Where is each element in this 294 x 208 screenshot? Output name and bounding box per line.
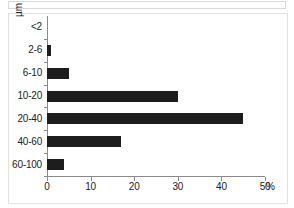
x-axis-unit-label: % (266, 181, 275, 192)
bar-chart: µm <22-66-1010-2020-4040-6060-100 010203… (0, 0, 294, 208)
y-axis-tick (44, 39, 47, 40)
x-axis-tick-label: 0 (32, 181, 62, 192)
bar (47, 136, 121, 147)
x-axis-line (47, 176, 265, 177)
y-axis-tick-label-slot: 2-6 (0, 44, 47, 56)
bar (47, 68, 69, 79)
bar (47, 113, 243, 124)
y-axis-tick (44, 153, 47, 154)
y-axis-tick-label: 40-60 (3, 136, 47, 147)
bar (47, 91, 178, 102)
y-axis-tick-label: 60-100 (3, 159, 47, 170)
y-axis-tick-label-slot: <2 (0, 21, 47, 33)
y-axis-tick (44, 62, 47, 63)
y-axis-tick-label-slot: 60-100 (0, 159, 47, 171)
y-axis-tick-label-slot: 10-20 (0, 90, 47, 102)
y-axis-tick-label: 10-20 (3, 90, 47, 101)
x-axis-tick-label: 10 (76, 181, 106, 192)
x-axis-tick-label: 20 (119, 181, 149, 192)
y-axis-tick-label-slot: 40-60 (0, 136, 47, 148)
y-axis-tick-label-slot: 6-10 (0, 67, 47, 79)
x-axis-tick-label: 30 (163, 181, 193, 192)
y-axis-tick-label: 20-40 (3, 113, 47, 124)
y-axis-tick (44, 130, 47, 131)
bar (47, 45, 51, 56)
y-axis-title: µm (13, 3, 24, 17)
bar (47, 159, 64, 170)
x-axis-tick-label: 50 (250, 181, 280, 192)
x-axis-tick-label: 40 (206, 181, 236, 192)
y-axis-tick-label: <2 (3, 21, 47, 32)
y-axis-tick (44, 107, 47, 108)
y-axis-tick (44, 85, 47, 86)
y-axis-tick-label: 6-10 (3, 67, 47, 78)
y-axis-tick-label-slot: 20-40 (0, 113, 47, 125)
y-axis-tick-label: 2-6 (3, 44, 47, 55)
